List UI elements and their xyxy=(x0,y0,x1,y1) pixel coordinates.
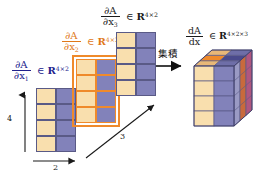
set-membership-tensor: ∈ R4×2×3 xyxy=(206,31,248,41)
matrix-cell xyxy=(36,88,56,104)
matrix-cell xyxy=(76,75,96,91)
matrix-cell xyxy=(96,75,116,91)
vertical-axis-label: 4 xyxy=(7,114,12,123)
matrix-cell xyxy=(116,80,136,96)
diagram-canvas: ∂A ∂x1 ∈ R4×2 ∂A ∂x2 ∈ R4×2 ∂A ∂x3 ∈ R4×… xyxy=(0,0,258,178)
vertical-axis xyxy=(18,88,32,154)
matrix-cell xyxy=(56,104,76,120)
set-membership-x2: ∈ R4×2 xyxy=(84,37,119,47)
matrix-cell xyxy=(56,88,76,104)
tensor-3d[interactable] xyxy=(190,48,258,126)
matrix-cell xyxy=(56,136,76,152)
tensor-front-face xyxy=(194,66,234,126)
horizontal-axis-label: 2 xyxy=(53,163,58,172)
matrix-cell xyxy=(136,48,156,64)
label-partial-A-partial-x3: ∂A ∂x3 ∈ R4×2 xyxy=(101,6,158,27)
frac-numerator: dA xyxy=(186,26,203,37)
matrix-cell xyxy=(116,32,136,48)
matrix-cell xyxy=(36,104,56,120)
label-partial-A-partial-x2: ∂A ∂x2 ∈ R4×2 xyxy=(62,31,119,52)
matrix-dx3[interactable] xyxy=(116,32,156,96)
depth-axis xyxy=(84,98,164,160)
frac-denominator: ∂x3 xyxy=(101,17,120,27)
frac-dA-dx1: ∂A ∂x1 xyxy=(12,60,31,81)
matrix-cell xyxy=(116,64,136,80)
matrix-cell xyxy=(76,59,96,75)
frac-dA-dx: dA dx xyxy=(186,26,203,46)
frac-dA-dx2: ∂A ∂x2 xyxy=(62,31,81,52)
matrix-cell xyxy=(136,64,156,80)
frac-dA-dx3: ∂A ∂x3 xyxy=(101,6,120,27)
matrix-cell xyxy=(96,59,116,75)
frac-denominator: ∂x2 xyxy=(62,42,81,52)
set-membership-x1: ∈ R4×2 xyxy=(34,66,69,76)
label-total-derivative-tensor: dA dx ∈ R4×2×3 xyxy=(186,26,248,46)
depth-axis-label: 3 xyxy=(120,132,125,141)
matrix-cell xyxy=(36,136,56,152)
label-partial-A-partial-x1: ∂A ∂x1 ∈ R4×2 xyxy=(12,60,69,81)
matrix-cell xyxy=(136,80,156,96)
set-membership-x3: ∈ R4×2 xyxy=(123,12,158,22)
frac-denominator: dx xyxy=(186,37,203,47)
frac-denominator: ∂x1 xyxy=(12,71,31,81)
matrix-cell xyxy=(136,32,156,48)
matrix-dx1[interactable] xyxy=(36,88,76,152)
matrix-cell xyxy=(56,120,76,136)
matrix-cell xyxy=(36,120,56,136)
accumulate-arrow xyxy=(155,58,191,77)
matrix-cell xyxy=(116,48,136,64)
